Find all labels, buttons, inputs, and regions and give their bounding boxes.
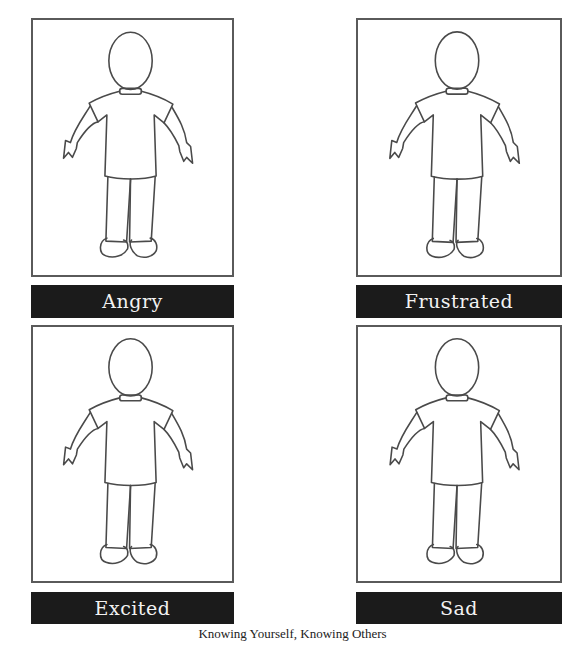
person-outline-icon (358, 20, 560, 275)
person-outline-icon (33, 327, 232, 581)
emotion-label: Angry (31, 285, 234, 318)
emotion-label: Frustrated (356, 285, 562, 318)
figure-frame (356, 325, 562, 583)
emotion-label: Excited (31, 592, 234, 624)
person-outline-icon (358, 327, 560, 581)
emotion-label: Sad (356, 592, 562, 624)
figure-frame (31, 18, 234, 277)
figure-frame (356, 18, 562, 277)
page-footer: Knowing Yourself, Knowing Others (0, 626, 585, 642)
figure-frame (31, 325, 234, 583)
person-outline-icon (33, 20, 232, 275)
